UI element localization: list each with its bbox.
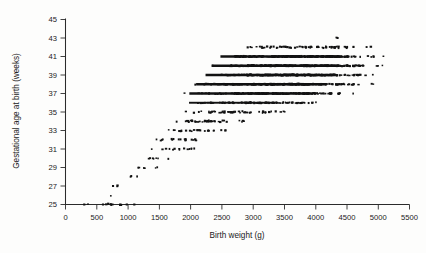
data-point [299,93,301,94]
data-point [343,56,345,58]
data-point [222,111,224,113]
data-point [287,102,289,104]
data-point [185,111,187,113]
data-point [179,138,181,140]
data-point [337,37,339,39]
data-point [300,74,302,76]
data-point [250,111,252,113]
data-point [278,65,280,66]
data-point [287,46,289,48]
data-point [303,84,305,86]
data-point [332,55,334,57]
data-point [297,65,299,67]
data-point [339,92,341,94]
data-point [210,83,212,85]
data-point [172,149,174,151]
data-point [337,55,339,56]
data-point [213,130,215,132]
y-tick-label: 29 [49,163,57,172]
data-point [133,204,135,206]
data-point [264,83,266,85]
x-tick-label: 4000 [307,213,324,222]
data-point [346,47,348,49]
data-point [168,129,170,130]
data-point [197,92,199,94]
data-point [292,92,294,94]
data-point [353,55,355,56]
data-point [315,65,317,67]
data-point [220,129,222,131]
data-point [224,110,226,112]
data-point [292,83,294,85]
data-point [153,158,155,160]
data-point [242,120,244,122]
data-point [307,74,309,76]
data-point [282,102,284,104]
data-point [208,120,210,122]
data-point [237,55,239,57]
data-point [207,130,209,132]
data-point [325,74,327,76]
data-point [296,102,298,104]
data-point [194,120,196,122]
data-point [222,83,224,85]
data-point [347,55,349,57]
data-point [314,93,316,95]
data-point [184,139,186,141]
data-point [354,64,356,66]
data-point [259,74,261,76]
data-point [213,83,215,85]
data-point [205,92,207,94]
x-tick-label: 5500 [401,213,418,222]
data-point [251,65,253,67]
data-point [285,65,287,67]
data-point [260,65,262,67]
data-point [234,55,236,57]
data-point [317,93,319,95]
data-point [208,111,210,113]
data-point [219,102,221,104]
data-point [257,74,259,76]
data-point [151,148,153,150]
data-point [289,65,291,67]
data-point [267,92,269,94]
data-point [228,83,230,84]
data-point [322,84,324,85]
data-point [247,74,249,76]
x-tick-label: 3000 [245,213,262,222]
data-point [383,56,385,57]
data-point [278,55,280,57]
data-point [270,65,272,67]
x-tick-label: 4500 [339,213,356,222]
data-point [312,74,314,76]
data-point [270,74,272,76]
data-point [178,138,180,140]
y-tick-label: 37 [49,89,57,98]
data-point [224,102,226,104]
data-point [217,84,219,86]
data-point [165,148,167,150]
data-point [180,130,182,132]
data-point [331,47,333,49]
data-point [286,83,288,85]
data-point [337,83,339,85]
data-point [273,102,275,104]
data-point [327,93,329,95]
data-point [185,130,187,132]
data-point [112,185,114,187]
data-point [191,148,193,149]
data-point [271,55,273,57]
x-axis-title: Birth weight (g) [209,231,264,240]
data-point [144,167,146,169]
data-point [376,65,378,67]
data-point [266,45,268,47]
data-point [225,74,227,76]
data-point [193,129,195,131]
data-point [116,184,118,186]
data-point [216,93,218,95]
data-point [373,56,375,58]
data-point [173,129,175,131]
data-point [275,102,277,103]
data-point [196,83,198,85]
data-point [169,148,171,150]
